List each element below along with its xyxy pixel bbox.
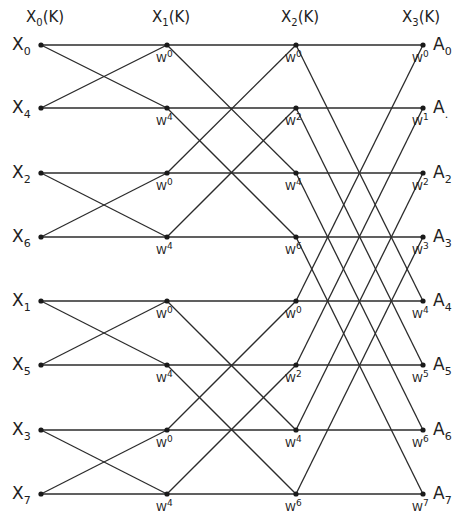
- node-dot: [420, 362, 425, 367]
- node-dot: [38, 491, 43, 496]
- twiddle-w4: W4: [412, 305, 429, 321]
- node-dot: [420, 105, 425, 110]
- twiddle-factor-labels: W0W4W0W4W0W4W0W4W0W2W4W6W0W2W4W6W0W1W2W3…: [156, 49, 429, 514]
- node-dot: [164, 42, 169, 47]
- node-dot: [293, 170, 298, 175]
- twiddle-w4: W4: [285, 177, 302, 193]
- node-dot: [293, 491, 298, 496]
- node-dot: [293, 298, 298, 303]
- stage-header-2: X2(K): [281, 8, 319, 28]
- fft-butterfly-diagram: X0(K)X1(K)X2(K)X3(K) X0X4X2X6X1X5X3X7 A0…: [0, 0, 468, 522]
- twiddle-w0: W0: [285, 49, 302, 65]
- node-dot: [164, 105, 169, 110]
- node-dot: [164, 298, 169, 303]
- twiddle-w0: W0: [156, 305, 173, 321]
- twiddle-w2: W2: [285, 112, 302, 128]
- twiddle-w6: W6: [285, 498, 302, 514]
- output-label-a5: A5: [433, 354, 452, 378]
- stage-header-1: X1(K): [152, 8, 190, 28]
- node-dot: [420, 427, 425, 432]
- twiddle-w0: W0: [156, 177, 173, 193]
- twiddle-w0: W0: [285, 305, 302, 321]
- twiddle-w0: W0: [156, 434, 173, 450]
- output-label-a2: A2: [433, 162, 452, 186]
- output-labels: A0A.A2A3A4A5A6A7: [433, 34, 452, 507]
- node-dot: [164, 427, 169, 432]
- node-dot: [293, 362, 298, 367]
- twiddle-w4: W4: [285, 434, 302, 450]
- stage-header-0: X0(K): [26, 8, 64, 28]
- node-dot: [293, 42, 298, 47]
- node-dot: [38, 362, 43, 367]
- node-dot: [38, 42, 43, 47]
- signal-flow-wires: [41, 45, 423, 494]
- input-label-x4: X4: [12, 97, 31, 121]
- input-label-x5: X5: [12, 354, 31, 378]
- twiddle-w1: W1: [412, 112, 429, 128]
- twiddle-w3: W3: [412, 241, 429, 257]
- twiddle-w4: W4: [156, 498, 173, 514]
- twiddle-w6: W6: [412, 434, 429, 450]
- twiddle-w4: W4: [156, 241, 173, 257]
- node-dot: [164, 491, 169, 496]
- twiddle-w6: W6: [285, 241, 302, 257]
- node-dot: [420, 234, 425, 239]
- twiddle-w0: W0: [156, 49, 173, 65]
- node-dot: [38, 234, 43, 239]
- input-label-x7: X7: [12, 483, 31, 507]
- node-dot: [38, 298, 43, 303]
- output-label-a0: A0: [433, 34, 452, 58]
- node-dot: [164, 362, 169, 367]
- node-dot: [293, 427, 298, 432]
- output-label-a3: A3: [433, 226, 452, 250]
- output-label-a4: A4: [433, 290, 452, 314]
- output-label-a1: A.: [433, 97, 448, 121]
- node-dot: [164, 234, 169, 239]
- input-label-x2: X2: [12, 162, 31, 186]
- input-label-x0: X0: [12, 34, 31, 58]
- input-label-x1: X1: [12, 290, 31, 314]
- node-dot: [293, 234, 298, 239]
- input-label-x6: X6: [12, 226, 31, 250]
- stage-headers: X0(K)X1(K)X2(K)X3(K): [26, 8, 440, 28]
- node-dot: [420, 170, 425, 175]
- twiddle-w2: W2: [285, 369, 302, 385]
- node-dot: [420, 42, 425, 47]
- node-dot: [38, 105, 43, 110]
- output-label-a7: A7: [433, 483, 452, 507]
- twiddle-w0: W0: [412, 49, 429, 65]
- twiddle-w4: W4: [156, 369, 173, 385]
- node-dot: [38, 427, 43, 432]
- twiddle-w2: W2: [412, 177, 429, 193]
- twiddle-w4: W4: [156, 112, 173, 128]
- input-label-x3: X3: [12, 419, 31, 443]
- input-labels: X0X4X2X6X1X5X3X7: [12, 34, 31, 507]
- output-label-a6: A6: [433, 419, 452, 443]
- node-dot: [420, 491, 425, 496]
- stage-header-3: X3(K): [402, 8, 440, 28]
- node-dot: [164, 170, 169, 175]
- node-dot: [38, 170, 43, 175]
- node-dot: [420, 298, 425, 303]
- node-dot: [293, 105, 298, 110]
- twiddle-w7: W7: [412, 498, 429, 514]
- twiddle-w5: W5: [412, 369, 429, 385]
